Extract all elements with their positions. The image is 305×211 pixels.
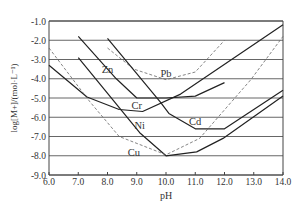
- x-tick-label: 7.0: [72, 177, 84, 187]
- y-axis-label: log[M+]/(mol·L⁻¹): [9, 63, 19, 132]
- chart: -1.0-2.0-3.0-4.0-5.0-6.0-7.0-8.0-9.0 6.0…: [0, 0, 305, 211]
- y-tick-label: -7.0: [31, 132, 46, 142]
- y-tick-label: -6.0: [31, 113, 46, 123]
- x-tick-label: 6.0: [43, 177, 55, 187]
- series-line-zn: [78, 36, 224, 98]
- y-tick-label: -4.0: [31, 74, 46, 84]
- series-label-cd: Cd: [189, 116, 202, 127]
- x-tick-label: 12.0: [216, 177, 233, 187]
- y-tick-label: -8.0: [31, 151, 46, 161]
- x-tick-label: 11.0: [187, 177, 204, 187]
- x-tick-label: 14.0: [275, 177, 292, 187]
- y-tick-label: -1.0: [31, 17, 46, 27]
- x-tick-labels: 6.07.08.09.010.011.012.013.014.0: [43, 177, 292, 187]
- y-tick-label: -5.0: [31, 94, 46, 104]
- x-tick-label: 9.0: [131, 177, 143, 187]
- series-label-zn: Zn: [102, 64, 114, 75]
- y-tick-label: -3.0: [31, 55, 46, 65]
- series-line-cu: [49, 36, 283, 154]
- series-label-cr: Cr: [132, 100, 143, 111]
- x-tick-label: 10.0: [158, 177, 175, 187]
- series-label-pb: Pb: [160, 68, 171, 79]
- y-tick-labels: -1.0-2.0-3.0-4.0-5.0-6.0-7.0-8.0-9.0: [31, 17, 46, 181]
- x-tick-label: 8.0: [102, 177, 114, 187]
- y-tick-label: -2.0: [31, 36, 46, 46]
- x-tick-label: 13.0: [245, 177, 262, 187]
- x-axis-label: pH: [160, 190, 172, 201]
- series-label-cu: Cu: [128, 147, 141, 158]
- series-label-ni: Ni: [134, 120, 145, 131]
